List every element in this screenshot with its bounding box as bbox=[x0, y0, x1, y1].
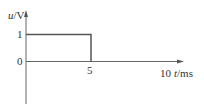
chart-canvas bbox=[0, 0, 204, 108]
x-axis-unit: /ms bbox=[177, 67, 193, 79]
x-tick-10: 10 bbox=[160, 68, 171, 79]
pulse-signal-line bbox=[26, 35, 91, 62]
y-axis-label: u/V bbox=[8, 10, 25, 21]
x-axis-arrow-icon bbox=[177, 60, 184, 64]
pulse-chart: u/V 1 0 5 10 t/ms bbox=[0, 0, 204, 108]
y-tick-0: 0 bbox=[17, 56, 23, 67]
y-axis-unit: /V bbox=[14, 9, 25, 21]
x-axis-label: t/ms bbox=[174, 68, 193, 79]
y-tick-1: 1 bbox=[17, 29, 23, 40]
x-tick-5: 5 bbox=[87, 65, 93, 76]
